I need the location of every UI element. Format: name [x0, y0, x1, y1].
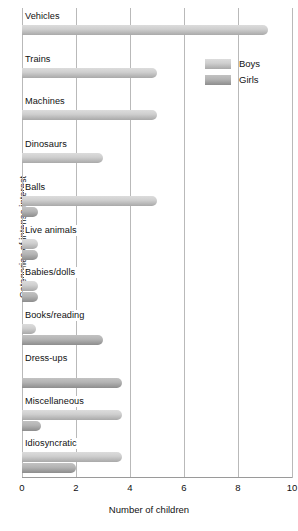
legend-label-boys: Boys: [239, 58, 260, 69]
legend-swatch-boys: [205, 59, 231, 69]
category-label: Dress-ups: [24, 353, 70, 364]
bar-girls: [22, 378, 122, 388]
bar-girls: [22, 250, 38, 260]
category-group: Balls: [22, 179, 292, 222]
legend: Boys Girls: [205, 58, 260, 90]
x-tick-label-0: 0: [19, 482, 24, 493]
category-label: Books/reading: [24, 310, 87, 321]
bar-boys: [22, 452, 122, 462]
x-tick-label-6: 6: [181, 482, 186, 493]
x-axis-title: Number of children: [0, 504, 298, 515]
bar-girls: [22, 421, 41, 431]
category-group: Idiosyncratic: [22, 435, 292, 478]
bar-boys: [22, 153, 103, 163]
bar-boys: [22, 25, 268, 35]
x-tick-label-2: 2: [73, 482, 78, 493]
x-tick-label-10: 10: [287, 482, 298, 493]
legend-swatch-girls: [205, 75, 231, 85]
category-label: Dinosaurs: [24, 139, 70, 150]
bar-boys: [22, 110, 157, 120]
category-group: Babies/dolls: [22, 264, 292, 307]
legend-item-girls: Girls: [205, 74, 260, 85]
category-label: Live animals: [24, 225, 80, 236]
bar-boys: [22, 281, 38, 291]
category-label: Machines: [24, 96, 68, 107]
category-group: Books/reading: [22, 307, 292, 350]
category-label: Miscellaneous: [24, 396, 87, 407]
category-group: Vehicles: [22, 8, 292, 51]
category-label: Vehicles: [24, 11, 63, 22]
bar-boys: [22, 239, 38, 249]
category-group: Machines: [22, 93, 292, 136]
bar-girls: [22, 292, 38, 302]
bar-boys: [22, 68, 157, 78]
bar-chart: Categories of intense interest VehiclesT…: [0, 0, 298, 531]
category-label: Trains: [24, 54, 53, 65]
bar-girls: [22, 207, 38, 217]
bar-boys: [22, 196, 157, 206]
category-group: Dress-ups: [22, 350, 292, 393]
bar-boys: [22, 324, 36, 334]
x-tick-label-4: 4: [127, 482, 132, 493]
category-group: Live animals: [22, 222, 292, 265]
category-label: Balls: [24, 182, 48, 193]
bar-boys: [22, 410, 122, 420]
category-label: Babies/dolls: [24, 267, 78, 278]
legend-label-girls: Girls: [239, 74, 259, 85]
gridline-10: [292, 8, 293, 478]
category-group: Dinosaurs: [22, 136, 292, 179]
category-label: Idiosyncratic: [24, 438, 80, 449]
legend-item-boys: Boys: [205, 58, 260, 69]
category-group: Miscellaneous: [22, 393, 292, 436]
bar-girls: [22, 463, 76, 473]
bar-girls: [22, 335, 103, 345]
x-tick-label-8: 8: [235, 482, 240, 493]
